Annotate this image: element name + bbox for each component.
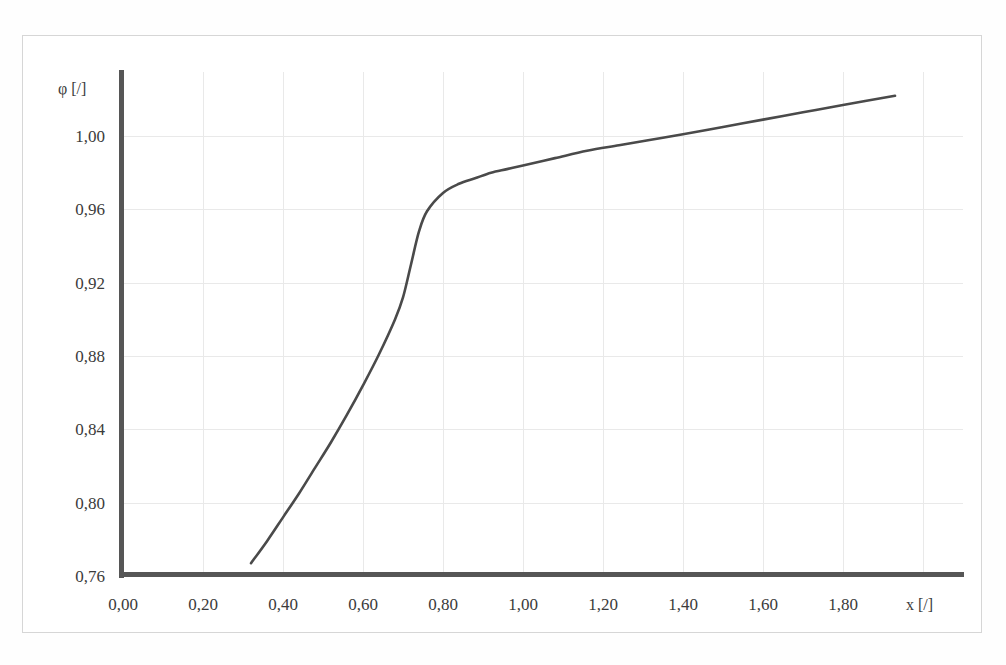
- x-tick-label: 1,40: [648, 596, 718, 613]
- x-axis-line: [119, 572, 964, 577]
- x-axis-tick-labels: 0,000,200,400,600,801,001,201,401,601,80: [123, 596, 1006, 622]
- plot-area: [123, 72, 963, 576]
- x-tick-label: 1,80: [808, 596, 878, 613]
- y-tick-label: 0,88: [43, 348, 105, 365]
- x-tick-label: 0,80: [408, 596, 478, 613]
- x-tick-label: 1,60: [728, 596, 798, 613]
- y-axis-line: [119, 70, 124, 578]
- series-phi-line: [251, 96, 895, 563]
- data-curve: [123, 72, 963, 576]
- y-tick-label: 0,96: [43, 201, 105, 218]
- clipped-header-text: [0, 0, 1006, 6]
- x-tick-label: 0,20: [168, 596, 238, 613]
- x-tick-label: 1,00: [488, 596, 558, 613]
- figure-page: φ [/] x [/] 0,760,800,840,880,920,961,00…: [0, 0, 1006, 665]
- y-tick-label: 0,84: [43, 421, 105, 438]
- x-tick-label: 0,40: [248, 596, 318, 613]
- x-tick-label: 1,20: [568, 596, 638, 613]
- y-tick-label: 0,76: [43, 568, 105, 585]
- y-tick-label: 1,00: [43, 128, 105, 145]
- y-tick-label: 0,92: [43, 275, 105, 292]
- y-axis-tick-labels: 0,760,800,840,880,920,961,00: [43, 0, 105, 665]
- x-tick-label: 0,60: [328, 596, 398, 613]
- y-tick-label: 0,80: [43, 495, 105, 512]
- x-tick-label: 0,00: [88, 596, 158, 613]
